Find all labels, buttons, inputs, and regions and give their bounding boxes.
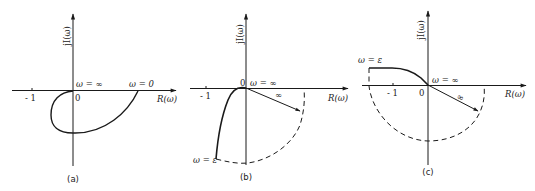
origin-label: 0: [240, 78, 245, 88]
omega-infinity-label: ω = ∞: [250, 78, 277, 88]
nyquist-curve: [51, 91, 138, 133]
omega-epsilon-label: ω = ε: [193, 155, 217, 165]
radius-infinity-label: ∞: [455, 91, 466, 103]
tick-minus-one-label: - 1: [25, 93, 36, 103]
y-axis-label: jI(ω): [62, 26, 72, 47]
panel-a: jI(ω) ω = ∞ ω = 0 0 - 1 R(ω) (a): [12, 14, 177, 184]
omega-infinity-label: ω = ∞: [76, 79, 103, 89]
x-axis-label: R(ω): [504, 89, 525, 99]
panel-caption: (a): [67, 174, 79, 184]
omega-epsilon-label: ω = ε: [358, 55, 382, 65]
panel-caption: (b): [240, 172, 252, 182]
origin-label: 0: [419, 88, 424, 98]
radius-infinity-label: ∞: [275, 90, 282, 100]
x-axis-label: R(ω): [327, 93, 348, 103]
radius-arrow: [246, 88, 300, 111]
nyquist-figure: jI(ω) ω = ∞ ω = 0 0 - 1 R(ω) (a) jI(ω) 0…: [0, 0, 535, 191]
radius-arrow: [428, 85, 478, 111]
panel-caption: (c): [422, 167, 433, 177]
nyquist-curve: [369, 68, 428, 85]
origin-label: 0: [75, 93, 80, 103]
panel-c: jI(ω) ω = ε ω = ∞ - 1 0 ∞ R(ω) (c): [358, 11, 526, 177]
infinite-arc-dashed: [216, 89, 304, 163]
tick-minus-one-label: - 1: [200, 91, 211, 101]
nyquist-curve: [216, 88, 246, 160]
tick-minus-one-label: - 1: [387, 88, 398, 98]
y-axis-label: jI(ω): [416, 20, 426, 41]
y-axis-label: jI(ω): [235, 24, 245, 45]
panel-b: jI(ω) 0 ω = ∞ - 1 ∞ R(ω) ω = ε (b): [190, 14, 348, 182]
x-axis-label: R(ω): [156, 94, 177, 104]
omega-zero-label: ω = 0: [129, 79, 154, 89]
infinite-arc-dashed: [369, 68, 484, 141]
omega-infinity-label: ω = ∞: [432, 75, 459, 85]
